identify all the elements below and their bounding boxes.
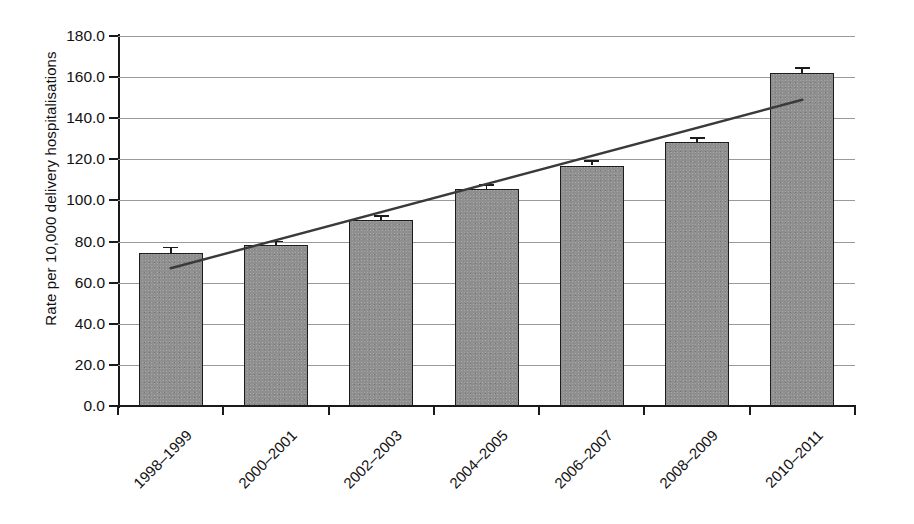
error-bar-cap — [584, 160, 599, 162]
gridline — [118, 159, 855, 160]
error-bar-cap — [479, 184, 494, 186]
y-axis-tick-mark — [109, 117, 118, 119]
error-bar-cap — [163, 247, 178, 249]
x-axis-tick-label: 2000–2001 — [217, 426, 300, 509]
bar — [244, 245, 308, 406]
x-axis-tick-mark — [749, 406, 751, 415]
gridline — [118, 118, 855, 119]
y-axis-tick-mark — [109, 241, 118, 243]
x-axis-tick-label: 2010–2011 — [744, 426, 827, 509]
y-axis-tick-label: 60.0 — [5, 274, 105, 292]
x-axis-tick-label: 2006–2007 — [533, 426, 616, 509]
error-bar-cap — [795, 67, 810, 69]
plot-area — [118, 36, 855, 406]
x-axis-tick-mark — [328, 406, 330, 415]
y-axis-tick-labels: 0.020.040.060.080.0100.0120.0140.0160.01… — [0, 0, 105, 524]
x-axis-tick-mark — [117, 406, 119, 415]
y-axis-tick-label: 0.0 — [5, 397, 105, 415]
y-axis-tick-mark — [109, 35, 118, 37]
y-axis-tick-mark — [109, 282, 118, 284]
bar — [455, 189, 519, 406]
chart-figure: Rate per 10,000 delivery hospitalisation… — [0, 0, 914, 524]
error-bar-cap — [690, 137, 705, 139]
y-axis-tick-label: 20.0 — [5, 356, 105, 374]
y-axis-tick-mark — [109, 199, 118, 201]
x-axis-tick-label: 2002–2003 — [322, 426, 405, 509]
x-axis-tick-label: 2008–2009 — [638, 426, 721, 509]
bar — [560, 166, 624, 407]
x-axis-tick-mark — [854, 406, 856, 415]
bar — [770, 73, 834, 406]
y-axis-tick-label: 160.0 — [5, 68, 105, 86]
x-axis-tick-mark — [222, 406, 224, 415]
bar — [139, 253, 203, 406]
y-axis-tick-mark — [109, 323, 118, 325]
error-bar-cap — [374, 215, 389, 217]
y-axis-tick-label: 180.0 — [5, 27, 105, 45]
x-axis-tick-mark — [433, 406, 435, 415]
y-axis-tick-label: 40.0 — [5, 315, 105, 333]
y-axis-tick-label: 120.0 — [5, 150, 105, 168]
bar — [349, 220, 413, 406]
y-axis-tick-mark — [109, 76, 118, 78]
error-bar-cap — [268, 241, 283, 243]
x-axis-tick-label: 2004–2005 — [428, 426, 511, 509]
x-axis-tick-mark — [643, 406, 645, 415]
gridline — [118, 36, 855, 37]
y-axis-tick-label: 100.0 — [5, 191, 105, 209]
x-axis-tick-mark — [538, 406, 540, 415]
y-axis-tick-mark — [109, 364, 118, 366]
x-axis-tick-label: 1998–1999 — [112, 426, 195, 509]
bar — [665, 142, 729, 406]
y-axis-tick-label: 140.0 — [5, 109, 105, 127]
y-axis-tick-mark — [109, 158, 118, 160]
gridline — [118, 77, 855, 78]
y-axis-tick-label: 80.0 — [5, 233, 105, 251]
